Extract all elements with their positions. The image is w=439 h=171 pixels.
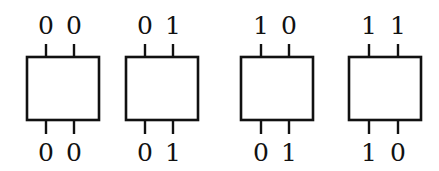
output-label-1: 1	[361, 138, 377, 167]
input-label-2: 0	[281, 11, 297, 40]
gate-box-4: 1 1 1 0	[349, 11, 421, 167]
output-label-1: 0	[137, 138, 153, 167]
output-label-2: 0	[390, 138, 406, 167]
output-label-2: 0	[66, 138, 82, 167]
input-label-1: 0	[137, 11, 153, 40]
input-label-1: 1	[361, 11, 377, 40]
input-label-1: 1	[253, 11, 269, 40]
gate-box-2: 0 1 0 1	[126, 11, 198, 167]
gate-body	[126, 57, 198, 120]
output-label-2: 1	[281, 138, 297, 167]
input-label-2: 1	[390, 11, 406, 40]
input-label-2: 1	[165, 11, 181, 40]
gate-box-1: 0 0 0 0	[27, 11, 99, 167]
gate-body	[349, 57, 421, 120]
gate-diagram: 0 0 0 0 0 1 0 1 1 0 0 1 1 1 1 0	[0, 0, 439, 171]
input-label-1: 0	[38, 11, 54, 40]
gate-body	[241, 57, 313, 120]
gate-body	[27, 57, 99, 120]
output-label-2: 1	[165, 138, 181, 167]
output-label-1: 0	[253, 138, 269, 167]
gate-box-3: 1 0 0 1	[241, 11, 313, 167]
input-label-2: 0	[66, 11, 82, 40]
output-label-1: 0	[38, 138, 54, 167]
